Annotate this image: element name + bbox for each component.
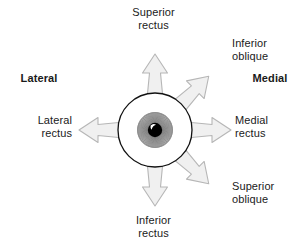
label-medial-orientation: Medial [237, 72, 303, 85]
label-medial-rectus: Medial rectus [235, 114, 307, 139]
label-inferior-oblique: Inferior oblique [232, 37, 307, 62]
label-superior-rectus: Superior rectus [0, 6, 307, 31]
label-inferior-rectus: Inferior rectus [0, 214, 307, 239]
extraocular-muscle-diagram: Superior rectus Inferior oblique Medial … [0, 0, 307, 250]
label-lateral-orientation: Lateral [6, 72, 72, 85]
label-lateral-rectus: Lateral rectus [2, 114, 72, 139]
label-superior-oblique: Superior oblique [232, 180, 307, 205]
eyeball [118, 93, 192, 167]
